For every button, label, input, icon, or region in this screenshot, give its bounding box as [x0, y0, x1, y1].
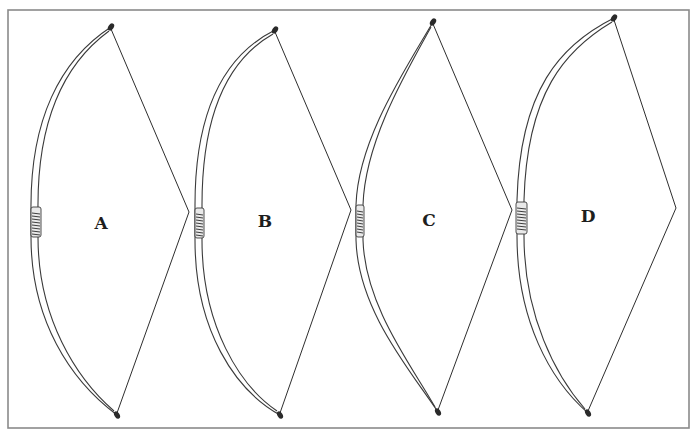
bow-diagram: A B C D — [0, 0, 697, 431]
bow-label-a: A — [94, 213, 107, 233]
bow-label-b: B — [258, 211, 272, 231]
bow-label-c: C — [422, 210, 436, 230]
bow-label-d: D — [581, 206, 596, 226]
